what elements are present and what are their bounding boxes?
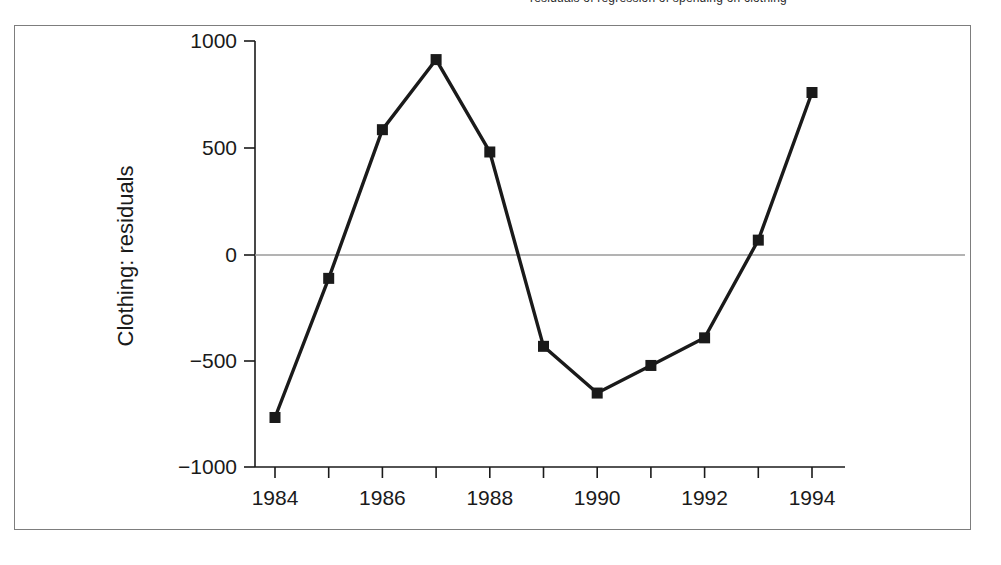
data-point-marker bbox=[270, 412, 281, 423]
x-axis-ticks bbox=[275, 467, 812, 478]
series-line bbox=[275, 60, 812, 418]
data-point-marker bbox=[323, 273, 334, 284]
y-tick-label-1000: 1000 bbox=[190, 29, 237, 52]
line-chart: 1000 500 0 −500 −1000 Clothing: residual… bbox=[15, 26, 972, 531]
cropped-caption-text: residuals of regression of spending on c… bbox=[530, 0, 970, 5]
data-point-marker bbox=[431, 54, 442, 65]
x-tick-label-1994: 1994 bbox=[789, 486, 836, 509]
data-point-marker bbox=[484, 146, 495, 157]
plot-area: 1000 500 0 −500 −1000 Clothing: residual… bbox=[15, 26, 972, 531]
y-axis-ticks bbox=[244, 41, 255, 467]
y-tick-label-500: 500 bbox=[202, 136, 237, 159]
x-tick-label-1986: 1986 bbox=[359, 486, 406, 509]
figure-frame: 1000 500 0 −500 −1000 Clothing: residual… bbox=[14, 25, 971, 530]
y-axis-title: Clothing: residuals bbox=[113, 166, 138, 347]
data-point-marker bbox=[645, 360, 656, 371]
y-tick-label-minus500: −500 bbox=[190, 349, 237, 372]
data-point-marker bbox=[538, 341, 549, 352]
y-tick-label-0: 0 bbox=[225, 243, 237, 266]
y-tick-label-minus1000: −1000 bbox=[178, 455, 237, 478]
data-point-marker bbox=[807, 87, 818, 98]
series-markers bbox=[270, 54, 818, 423]
x-tick-label-1984: 1984 bbox=[252, 486, 299, 509]
x-tick-label-1992: 1992 bbox=[681, 486, 728, 509]
x-tick-label-1988: 1988 bbox=[466, 486, 513, 509]
data-point-marker bbox=[592, 388, 603, 399]
data-point-marker bbox=[753, 235, 764, 246]
data-point-marker bbox=[377, 124, 388, 135]
data-point-marker bbox=[699, 332, 710, 343]
x-tick-label-1990: 1990 bbox=[574, 486, 621, 509]
